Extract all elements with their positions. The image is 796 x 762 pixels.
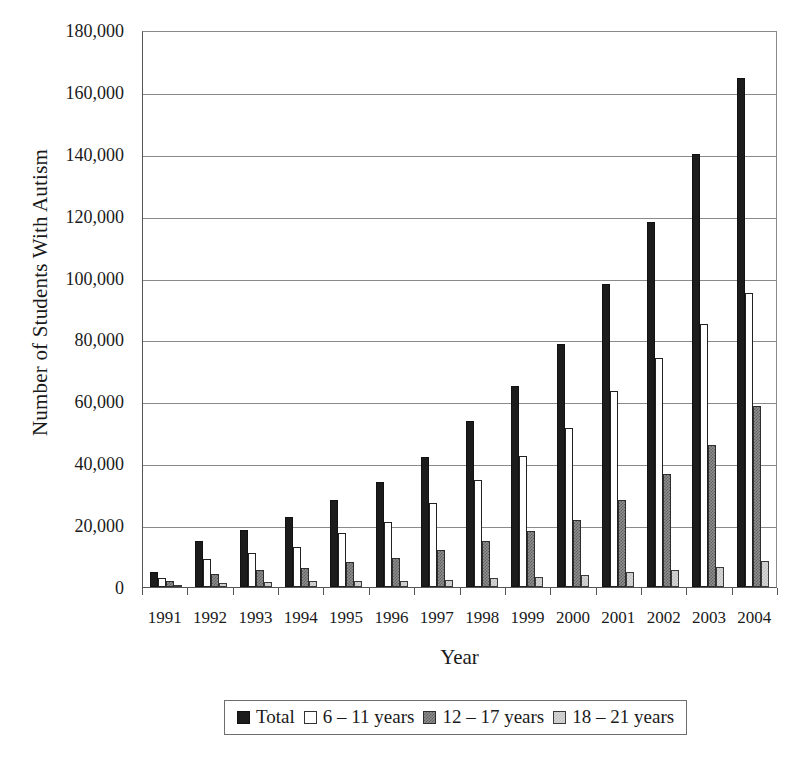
- x-axis-tick: [278, 588, 279, 595]
- bar: [248, 553, 256, 587]
- y-axis-tick-label: 60,000: [75, 392, 125, 413]
- bar: [264, 582, 272, 587]
- bar: [581, 575, 589, 587]
- bar: [565, 428, 573, 587]
- bar-group: [595, 32, 640, 587]
- bar: [338, 533, 346, 587]
- bar: [737, 78, 745, 587]
- bar-group: [414, 32, 459, 587]
- bar: [708, 445, 716, 587]
- y-axis-tick-label: 20,000: [75, 516, 125, 537]
- x-axis-tick: [505, 588, 506, 595]
- y-axis-tick-label: 160,000: [66, 82, 125, 103]
- bar: [293, 547, 301, 587]
- bar: [330, 500, 338, 587]
- bar: [602, 284, 610, 587]
- legend-item: 12 – 17 years: [423, 706, 544, 728]
- y-axis-tick-label: 140,000: [66, 144, 125, 165]
- bar-group: [369, 32, 414, 587]
- bar: [519, 456, 527, 588]
- bar: [511, 386, 519, 587]
- bar: [647, 222, 655, 587]
- x-axis-tick: [596, 588, 597, 595]
- x-axis-tick-label: 1994: [278, 608, 323, 632]
- bar-group: [188, 32, 233, 587]
- x-axis-tick: [414, 588, 415, 595]
- x-axis-tick: [641, 588, 642, 595]
- bar: [301, 568, 309, 587]
- y-axis-tick-labels: 180,000160,000140,000120,000100,00080,00…: [0, 31, 134, 588]
- bar: [195, 541, 203, 587]
- bar: [285, 517, 293, 587]
- legend-label: 6 – 11 years: [323, 706, 415, 728]
- bar: [466, 421, 474, 587]
- bar-group: [686, 32, 731, 587]
- x-axis-tick: [777, 588, 778, 595]
- x-axis-tick: [732, 588, 733, 595]
- autism-students-bar-chart: Number of Students With Autism 180,00016…: [0, 0, 796, 762]
- bar: [557, 344, 565, 587]
- bar: [400, 581, 408, 587]
- x-axis-tick-label: 2004: [732, 608, 777, 632]
- bar: [535, 577, 543, 587]
- bar-group: [279, 32, 324, 587]
- chart-legend: Total6 – 11 years12 – 17 years18 – 21 ye…: [224, 700, 687, 735]
- legend-swatch-icon: [237, 711, 250, 724]
- legend-label: 12 – 17 years: [442, 706, 544, 728]
- bar: [618, 500, 626, 587]
- bar: [573, 520, 581, 587]
- x-axis-tick-label: 1992: [187, 608, 232, 632]
- bar: [346, 562, 354, 587]
- x-axis-tick-label: 2003: [686, 608, 731, 632]
- bar: [354, 581, 362, 587]
- legend-item: 18 – 21 years: [553, 706, 674, 728]
- bar: [445, 580, 453, 587]
- bar: [745, 293, 753, 587]
- bar: [490, 578, 498, 587]
- bar: [384, 522, 392, 587]
- x-axis-tick: [460, 588, 461, 595]
- y-axis-tick-label: 40,000: [75, 454, 125, 475]
- legend-swatch-icon: [304, 711, 317, 724]
- bar: [700, 324, 708, 587]
- x-axis-tick-label: 2000: [550, 608, 595, 632]
- bar: [256, 570, 264, 587]
- bar: [421, 457, 429, 587]
- bar-group: [640, 32, 685, 587]
- bar-group: [731, 32, 776, 587]
- bar: [211, 574, 219, 587]
- legend-item: Total: [237, 706, 295, 728]
- bar: [240, 530, 248, 587]
- bar: [610, 391, 618, 587]
- bar-group: [550, 32, 595, 587]
- x-axis-title: Year: [142, 645, 777, 670]
- x-axis-tick-label: 1995: [323, 608, 368, 632]
- bar: [692, 154, 700, 587]
- bar-group: [460, 32, 505, 587]
- x-axis-tick: [550, 588, 551, 595]
- x-axis-tick: [686, 588, 687, 595]
- x-axis-tick-label: 1999: [505, 608, 550, 632]
- bar: [150, 572, 158, 587]
- x-axis-tick-label: 1997: [414, 608, 459, 632]
- x-axis-tick: [369, 588, 370, 595]
- bar: [671, 570, 679, 587]
- plot-area: [142, 31, 777, 588]
- legend-item: 6 – 11 years: [304, 706, 415, 728]
- bar: [158, 578, 166, 587]
- bar: [716, 567, 724, 587]
- y-axis-tick-label: 0: [115, 578, 124, 599]
- bar: [437, 550, 445, 587]
- x-axis-tick-labels: 1991199219931994199519961997199819992000…: [142, 608, 777, 632]
- x-axis-tick-label: 2001: [596, 608, 641, 632]
- legend-swatch-icon: [553, 711, 566, 724]
- x-axis-tick-label: 1998: [460, 608, 505, 632]
- bar: [429, 503, 437, 587]
- bar-groups: [143, 32, 776, 587]
- x-axis-tick: [142, 588, 143, 595]
- bar: [219, 583, 227, 587]
- bar-group: [505, 32, 550, 587]
- x-axis-tick-label: 1996: [369, 608, 414, 632]
- x-axis-tick-label: 2002: [641, 608, 686, 632]
- bar: [166, 581, 174, 587]
